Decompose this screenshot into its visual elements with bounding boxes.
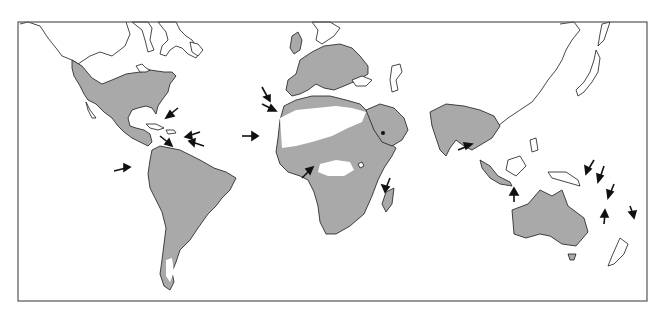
arrow-new-caledonia — [607, 184, 614, 198]
kamchatka — [598, 22, 610, 46]
world-map — [0, 0, 665, 317]
scandinavia — [312, 22, 340, 44]
arrow-lesser-antilles-1 — [185, 132, 200, 139]
tasmania — [568, 254, 576, 260]
europe-shade — [286, 44, 368, 96]
arrow-lesser-antilles-2 — [189, 139, 204, 146]
usa-mexico-shade — [72, 60, 176, 146]
hispaniola — [166, 130, 176, 134]
great-lakes — [136, 64, 150, 72]
south-america-shade — [148, 146, 236, 290]
east-asia-coast — [498, 22, 580, 126]
arrow-fiji — [629, 206, 636, 218]
australia-shade — [512, 190, 588, 246]
north-america — [20, 22, 203, 146]
arrow-lesser-sunda — [510, 188, 518, 202]
cuba — [146, 124, 164, 130]
arrow-solomons — [585, 160, 594, 174]
philippines — [530, 138, 538, 152]
madagascar — [382, 188, 394, 212]
caspian-sea — [390, 64, 402, 92]
arrow-comoros — [382, 178, 390, 192]
japan — [576, 50, 600, 96]
arabia-marker-dot — [381, 131, 385, 135]
europe — [286, 22, 402, 96]
arrow-caribbean-bahamas — [166, 108, 178, 118]
arrow-vanuatu — [597, 166, 604, 182]
arrow-canaries — [262, 104, 276, 111]
map-canvas — [0, 0, 665, 317]
british-isles — [290, 32, 302, 54]
arrow-trinidad — [160, 136, 172, 146]
arrow-azores — [262, 87, 270, 101]
arrow-galapagos — [114, 164, 130, 171]
arrow-norfolk — [601, 210, 608, 224]
asia — [430, 22, 610, 186]
borneo — [506, 156, 526, 176]
baja-california — [86, 102, 96, 118]
new-zealand — [608, 238, 628, 266]
new-guinea — [548, 172, 580, 186]
arrow-cape-verde — [242, 132, 258, 140]
alaska-canada-outline — [20, 22, 154, 64]
